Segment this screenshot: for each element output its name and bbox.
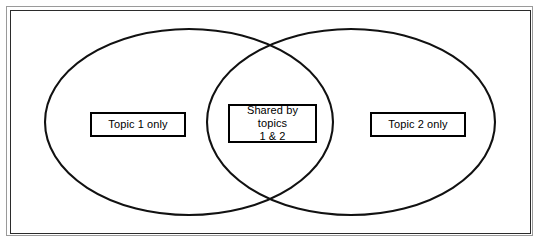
- label-text-shared: Shared by topics 1 & 2: [232, 104, 313, 143]
- label-box-topic-2-only: Topic 2 only: [370, 112, 466, 137]
- label-box-shared: Shared by topics 1 & 2: [228, 104, 317, 143]
- venn-diagram-figure: Topic 1 only Shared by topics 1 & 2 Topi…: [0, 0, 540, 243]
- label-box-topic-1-only: Topic 1 only: [90, 112, 186, 137]
- label-text-topic-2-only: Topic 2 only: [388, 118, 447, 131]
- label-text-topic-1-only: Topic 1 only: [108, 118, 167, 131]
